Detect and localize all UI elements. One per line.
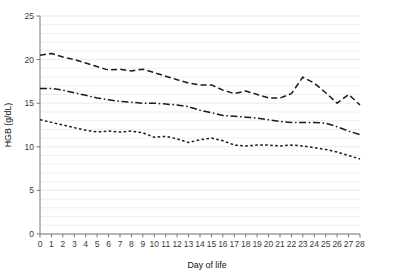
y-tick-label: 15	[25, 98, 35, 108]
x-tick-label: 9	[140, 239, 145, 249]
x-tick-label: 11	[161, 239, 170, 249]
x-tick-label: 17	[230, 239, 240, 249]
x-tick-label: 13	[184, 239, 194, 249]
x-tick-label: 4	[83, 239, 88, 249]
x-tick-label: 12	[172, 239, 182, 249]
x-tick-label: 14	[195, 239, 205, 249]
chart-container: 0510152025 01234567891011121314151617181…	[0, 0, 405, 272]
x-tick-label: 7	[118, 239, 123, 249]
x-tick-label: 26	[332, 239, 342, 249]
x-tick-label: 5	[95, 239, 100, 249]
y-axis-title: HGB (g/dL)	[3, 103, 13, 148]
x-tick-label: 19	[252, 239, 262, 249]
x-tick-label: 8	[129, 239, 134, 249]
x-tick-label: 22	[287, 239, 297, 249]
y-tick-label: 0	[29, 229, 34, 239]
x-tick-label: 1	[49, 239, 54, 249]
x-tick-label: 0	[38, 239, 43, 249]
x-tick-label: 15	[207, 239, 217, 249]
y-tick-label: 5	[29, 185, 34, 195]
x-tick-label: 18	[241, 239, 251, 249]
x-tick-label: 3	[72, 239, 77, 249]
y-tick-label: 10	[25, 142, 35, 152]
x-tick-label: 6	[106, 239, 111, 249]
chart-background	[0, 0, 405, 272]
x-tick-label: 21	[275, 239, 285, 249]
x-tick-label: 2	[60, 239, 65, 249]
x-tick-label: 16	[218, 239, 228, 249]
hgb-line-chart: 0510152025 01234567891011121314151617181…	[0, 0, 405, 272]
x-tick-label: 20	[264, 239, 274, 249]
x-tick-label: 27	[344, 239, 354, 249]
x-tick-label: 24	[310, 239, 320, 249]
x-tick-label: 10	[150, 239, 160, 249]
y-tick-label: 25	[25, 11, 35, 21]
x-tick-label: 23	[298, 239, 308, 249]
x-tick-label: 28	[355, 239, 365, 249]
x-tick-label: 25	[321, 239, 331, 249]
y-tick-label: 20	[25, 55, 35, 65]
x-axis-title: Day of life	[187, 260, 226, 270]
